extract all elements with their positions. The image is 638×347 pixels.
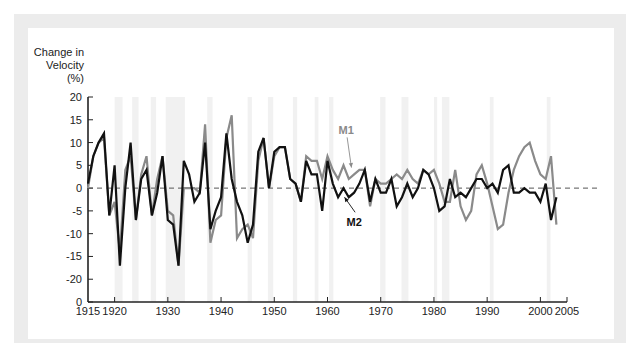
y-tick-label: -15 <box>66 250 82 262</box>
annotation-arrowhead <box>349 163 353 168</box>
recession-band <box>329 97 333 302</box>
recession-band <box>293 97 297 302</box>
recession-band <box>401 97 408 302</box>
y-tick-label: 15 <box>70 114 82 126</box>
recession-bands <box>115 97 551 302</box>
x-tick-label: 1940 <box>209 305 233 317</box>
annotation-label-m2: M2 <box>346 216 361 228</box>
x-tick-label: 1980 <box>422 305 446 317</box>
annotation-arrow <box>347 137 351 167</box>
series-annotations: M1M2 <box>338 124 361 228</box>
y-tick-label: -10 <box>66 228 82 240</box>
x-tick-label: 1930 <box>156 305 180 317</box>
x-tick-label: 1915 <box>76 305 100 317</box>
series-line-m2 <box>88 133 556 265</box>
y-tick-label: -20 <box>66 273 82 285</box>
y-tick-label: 0 <box>76 182 82 194</box>
y-tick-label: 10 <box>70 137 82 149</box>
x-tick-label: 2005 <box>555 305 579 317</box>
recession-band <box>315 97 319 302</box>
x-tick-label: 1990 <box>475 305 499 317</box>
recession-band <box>380 97 385 302</box>
line-chart: 20151050-5-10-15-20019151920193019401950… <box>0 0 638 347</box>
y-tick-label: 5 <box>76 159 82 171</box>
recession-band <box>268 97 273 302</box>
recession-band <box>248 97 252 302</box>
x-tick-label: 1960 <box>315 305 339 317</box>
x-tick-label: 2000 <box>528 305 552 317</box>
x-tick-label: 1920 <box>102 305 126 317</box>
y-tick-label: 20 <box>70 91 82 103</box>
x-tick-label: 1950 <box>262 305 286 317</box>
data-series <box>88 115 556 265</box>
x-tick-label: 1970 <box>368 305 392 317</box>
annotation-label-m1: M1 <box>338 124 353 136</box>
y-tick-label: -5 <box>72 205 82 217</box>
